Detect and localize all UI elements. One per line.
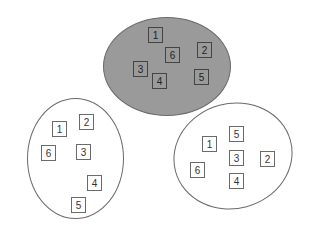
node-box: 3: [229, 150, 244, 166]
node-box: 2: [79, 114, 94, 130]
node-box: 6: [190, 162, 205, 178]
node-box: 5: [71, 197, 86, 213]
node-box: 1: [202, 136, 217, 152]
node-box: 4: [87, 175, 102, 191]
node-box: 5: [194, 69, 209, 85]
node-box: 1: [52, 121, 67, 137]
node-box: 3: [133, 61, 148, 77]
node-box: 4: [229, 173, 244, 189]
node-box: 1: [148, 27, 163, 43]
node-box: 2: [197, 42, 212, 58]
cluster-ellipse: [103, 17, 231, 116]
node-box: 2: [260, 151, 275, 167]
node-box: 4: [152, 73, 167, 89]
node-box: 6: [41, 145, 56, 161]
node-box: 6: [165, 47, 180, 63]
node-box: 5: [229, 126, 244, 142]
node-box: 3: [76, 144, 91, 160]
